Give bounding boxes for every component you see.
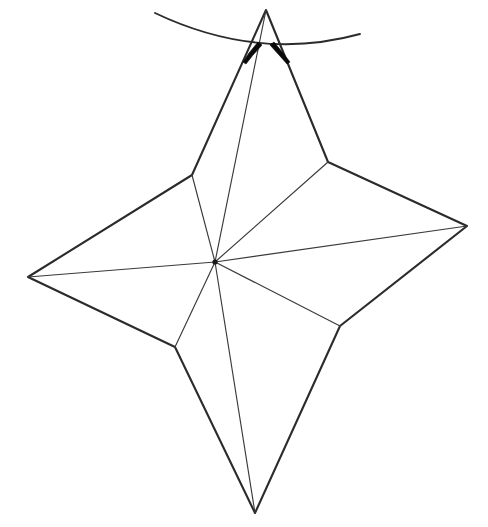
figure-canvas: Four-pointed star line drawing [0,0,488,527]
canvas-background [0,0,488,527]
center-hub-dot [212,259,217,264]
